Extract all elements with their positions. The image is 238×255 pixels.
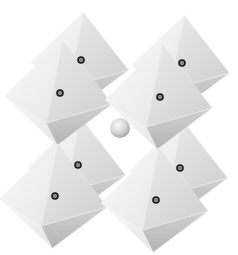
b-site-cation-dot (179, 60, 185, 66)
b-site-cation-dot (75, 162, 81, 168)
b-site-cation-dot (78, 57, 84, 63)
b-site-cation-dot (177, 165, 183, 171)
b-site-cation-dot (153, 197, 159, 203)
crystal-structure-svg (0, 0, 238, 255)
b-site-cation-dot (52, 193, 58, 199)
octahedra-diagram (0, 0, 238, 255)
a-site-sphere (110, 118, 130, 138)
b-site-cation-dot (57, 90, 63, 96)
central-cation-sphere (110, 118, 130, 138)
b-site-cation-dot (157, 94, 163, 100)
